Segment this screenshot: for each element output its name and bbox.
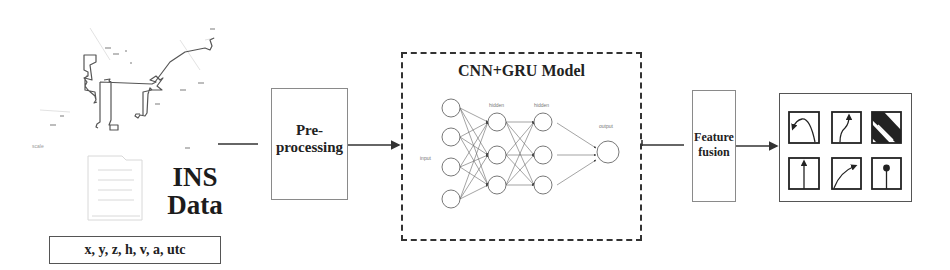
straight-icon: [789, 158, 819, 189]
left-turn-icon: [789, 112, 819, 143]
straight-stop-icon: [872, 158, 901, 189]
right-merge-icon: [832, 112, 861, 143]
right-curve-icon: [832, 158, 861, 189]
diagonal-road-icon: [872, 112, 901, 143]
result-icons: [0, 0, 950, 270]
